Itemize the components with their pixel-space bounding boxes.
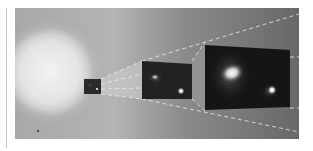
zoom-panel-1 [84,79,101,94]
figure-canvas [15,8,299,139]
source-sphere [15,30,92,114]
zoom-panel-2 [142,61,192,99]
left-rule [6,8,7,148]
zoom-panel-3 [205,45,290,110]
marker-dot [37,130,39,132]
zoom-figure [15,8,299,139]
